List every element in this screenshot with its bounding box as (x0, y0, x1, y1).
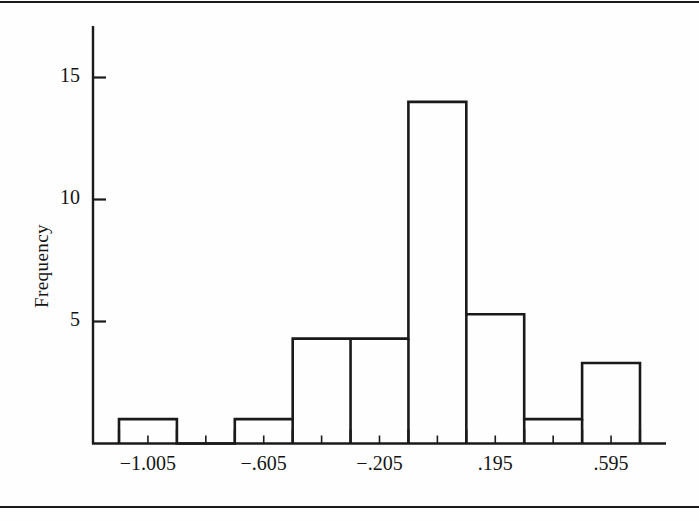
y-tick-label: 15 (34, 64, 80, 87)
x-tick-label: −.205 (320, 452, 440, 475)
bottom-horizontal-rule (0, 506, 699, 508)
histogram-figure: Frequency 15105 −1.005−.605−.205.195.595 (0, 0, 699, 521)
y-tick-label: 5 (34, 308, 80, 331)
plot-area: Frequency 15105 −1.005−.605−.205.195.595 (0, 0, 699, 500)
x-tick-marks (119, 430, 640, 444)
y-tick-label: 10 (34, 186, 80, 209)
x-tick-label: .195 (435, 452, 555, 475)
axes-group (92, 26, 666, 444)
histogram-bars (119, 102, 640, 444)
histogram-outline (119, 102, 640, 444)
x-tick-label: −.605 (204, 452, 324, 475)
x-tick-label: .595 (551, 452, 671, 475)
y-tick-marks (93, 78, 106, 322)
x-tick-label: −1.005 (88, 452, 208, 475)
chart-canvas (0, 0, 699, 500)
